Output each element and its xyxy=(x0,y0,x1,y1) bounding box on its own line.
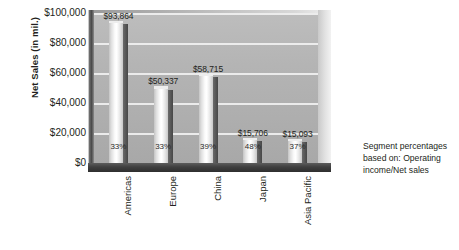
y-tick-label: $100,000 xyxy=(14,7,86,18)
bar-side-face xyxy=(168,90,173,164)
bar-percent-label: 33% xyxy=(148,142,178,151)
x-label-china: China xyxy=(212,176,223,246)
bar-value-label: $93,864 xyxy=(94,13,147,21)
plot-area: $93,86433%$50,33733%$58,71539%$15,70648%… xyxy=(94,13,318,163)
bar-value-label: $15,093 xyxy=(269,129,318,139)
y-tick-label: $20,000 xyxy=(14,127,86,138)
bar-percent-label: 33% xyxy=(103,142,133,151)
bar-percent-label: 37% xyxy=(283,142,313,151)
bar-front-face xyxy=(154,88,168,164)
bar-percent-label: 39% xyxy=(193,142,223,151)
x-label-japan: Japan xyxy=(257,176,268,246)
caption-line-3: income/Net sales xyxy=(363,164,459,176)
y-tick-label: $80,000 xyxy=(14,37,86,48)
bar-europe[interactable] xyxy=(154,88,168,164)
x-label-europe: Europe xyxy=(167,176,178,246)
chart-caption: Segment percentages based on: Operating … xyxy=(363,140,459,177)
x-axis-category-labels: AmericasEuropeChinaJapanAsia Pacific xyxy=(88,176,331,250)
plot-frame: $93,86433%$50,33733%$58,71539%$15,70648%… xyxy=(88,10,331,175)
x-label-americas: Americas xyxy=(122,176,133,246)
caption-line-1: Segment percentages xyxy=(363,140,459,152)
bar-percent-label: 48% xyxy=(238,142,268,151)
bar-chart-figure: Net Sales (in mil.) $0$20,000$40,000$60,… xyxy=(0,0,459,250)
plot-right-wall xyxy=(318,10,331,163)
y-tick-label: $40,000 xyxy=(14,97,86,108)
y-tick-label: $0 xyxy=(14,157,86,168)
bar-value-label: $58,715 xyxy=(179,64,237,74)
x-axis-floor xyxy=(88,163,331,172)
caption-line-2: based on: Operating xyxy=(363,152,459,164)
bar-value-label: $50,337 xyxy=(134,76,192,86)
x-label-asia-pacific: Asia Pacific xyxy=(302,176,313,246)
y-axis-tick-labels: $0$20,000$40,000$60,000$80,000$100,000 xyxy=(14,0,86,172)
y-tick-label: $60,000 xyxy=(14,67,86,78)
